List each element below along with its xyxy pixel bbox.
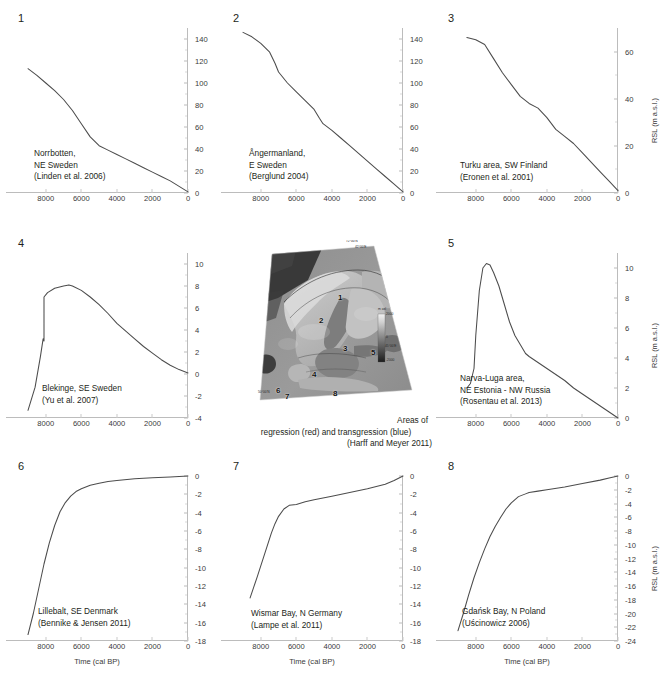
x-tick-label: 2000 bbox=[574, 419, 591, 428]
map-marker-7[interactable]: 7 bbox=[285, 392, 289, 401]
y-tick-label: -6 bbox=[410, 527, 417, 536]
map-marker-5[interactable]: 5 bbox=[371, 348, 375, 357]
map-coord-label-2: 45°00'E bbox=[385, 344, 396, 348]
y-tick-label: -2 bbox=[195, 490, 202, 499]
map-marker-2[interactable]: 2 bbox=[319, 316, 323, 325]
x-tick-label: 8000 bbox=[37, 194, 54, 203]
y-tick-label: -16 bbox=[195, 618, 206, 627]
panel-caption-line: (Yu et al. 2007) bbox=[42, 395, 122, 407]
y-tick-label: -6 bbox=[625, 513, 632, 522]
panel-number: 6 bbox=[18, 460, 24, 472]
y-tick-label: 6 bbox=[625, 324, 629, 333]
y-tick-label: -4 bbox=[195, 414, 202, 423]
x-tick-label: 4000 bbox=[108, 194, 125, 203]
x-tick-label: 6000 bbox=[503, 419, 520, 428]
y-tick-label: -10 bbox=[195, 563, 206, 572]
panel-7: 70-2-4-6-8-10-12-14-16-18800060004000200… bbox=[215, 458, 430, 674]
x-tick-label: 6000 bbox=[288, 194, 305, 203]
panel-caption-line: NE Sweden bbox=[34, 160, 106, 172]
map-satellite-image: 72°00'N 42°00'E 45°00'E 50°00'N m asl 20… bbox=[254, 240, 418, 412]
x-tick-label: 0 bbox=[186, 194, 190, 203]
x-tick-label: 4000 bbox=[538, 194, 555, 203]
x-tick-label: 6000 bbox=[503, 194, 520, 203]
y-tick-label: 60 bbox=[195, 123, 203, 132]
y-tick-label: -2 bbox=[410, 490, 417, 499]
map-caption: Areas of regression (red) and transgress… bbox=[236, 415, 436, 450]
panel-caption-line: Ångermanland, bbox=[249, 148, 309, 160]
y-tick-label: 0 bbox=[195, 472, 199, 481]
panel-number: 8 bbox=[448, 460, 454, 472]
y-tick-label: -4 bbox=[195, 508, 202, 517]
x-tick-label: 2000 bbox=[359, 194, 376, 203]
y-tick-label: -10 bbox=[625, 540, 636, 549]
y-tick-label: -4 bbox=[410, 508, 417, 517]
y-tick-label: 40 bbox=[625, 94, 633, 103]
x-axis-ticks: 80006000400020000 bbox=[6, 418, 188, 432]
y-tick-label: -16 bbox=[410, 618, 421, 627]
x-tick-label: 4000 bbox=[108, 642, 125, 651]
y-axis-title: RSL (m a.s.l.) bbox=[650, 98, 659, 143]
x-axis-ticks: 80006000400020000 bbox=[436, 641, 618, 655]
map-marker-1[interactable]: 1 bbox=[338, 293, 342, 302]
y-tick-label: 0 bbox=[625, 414, 629, 423]
map-coord-label-1: 42°00'E bbox=[355, 245, 366, 249]
panel-caption-line: Norrbotten, bbox=[34, 148, 106, 160]
panel-8: 80-2-4-6-8-10-12-14-16-18-20-22-24800060… bbox=[430, 458, 645, 674]
x-tick-label: 4000 bbox=[323, 642, 340, 651]
map-colorbar-tick-mid: 0 bbox=[386, 335, 388, 339]
panel-caption: Narva-Luga area,NE Estonia - NW Russia(R… bbox=[460, 373, 550, 408]
panel-caption-line: Gdańsk Bay, N Poland bbox=[462, 606, 545, 618]
y-tick-label: 0 bbox=[195, 370, 199, 379]
y-tick-label: -14 bbox=[625, 568, 636, 577]
x-tick-label: 0 bbox=[616, 419, 620, 428]
baltic-location-map: 72°00'N 42°00'E 45°00'E 50°00'N m asl 20… bbox=[236, 238, 436, 460]
panel-number: 4 bbox=[18, 237, 24, 249]
y-tick-label: -8 bbox=[625, 527, 632, 536]
panel-caption-line: (Uścinowicz 2006) bbox=[462, 618, 545, 630]
map-marker-4[interactable]: 4 bbox=[312, 370, 316, 379]
y-tick-label: -20 bbox=[625, 609, 636, 618]
panel-6: 60-2-4-6-8-10-12-14-16-18800060004000200… bbox=[0, 458, 215, 674]
y-tick-label: 20 bbox=[195, 167, 203, 176]
y-tick-label: -18 bbox=[195, 637, 206, 646]
x-tick-label: 2000 bbox=[144, 419, 161, 428]
map-marker-8[interactable]: 8 bbox=[333, 389, 337, 398]
map-colorbar-tick-top: 2000 bbox=[386, 312, 393, 316]
map-marker-6[interactable]: 6 bbox=[276, 386, 280, 395]
y-tick-label: -2 bbox=[625, 485, 632, 494]
panel-caption: Turku area, SW Finland(Eronen et al. 200… bbox=[460, 160, 547, 183]
y-tick-label: 40 bbox=[410, 145, 418, 154]
panel-caption-line: (Bennike & Jensen 2011) bbox=[38, 618, 131, 630]
x-tick-label: 2000 bbox=[574, 194, 591, 203]
panel-caption: Blekinge, SE Sweden(Yu et al. 2007) bbox=[42, 383, 122, 406]
y-tick-label: 8 bbox=[195, 282, 199, 291]
x-tick-label: 6000 bbox=[288, 642, 305, 651]
panel-caption-line: Turku area, SW Finland bbox=[460, 160, 547, 172]
map-marker-3[interactable]: 3 bbox=[343, 344, 347, 353]
map-coord-label-3: 50°00'N bbox=[258, 390, 270, 394]
x-axis-ticks: 80006000400020000 bbox=[221, 641, 403, 655]
x-tick-label: 8000 bbox=[37, 642, 54, 651]
x-tick-label: 6000 bbox=[503, 642, 520, 651]
x-tick-label: 4000 bbox=[323, 194, 340, 203]
panel-caption-line: Wismar Bay, N Germany bbox=[251, 608, 342, 620]
panel-4: 4-4-2024681080006000400020000Blekinge, S… bbox=[0, 235, 215, 457]
panel-caption: Lillebalt, SE Denmark(Bennike & Jensen 2… bbox=[38, 606, 131, 629]
panel-caption-line: E Sweden bbox=[249, 160, 309, 172]
y-tick-label: 140 bbox=[195, 35, 208, 44]
y-tick-label: 80 bbox=[410, 101, 418, 110]
y-axis-title: RSL (m a.s.l.) bbox=[650, 546, 659, 591]
y-tick-label: 0 bbox=[625, 472, 629, 481]
y-tick-label: 0 bbox=[625, 189, 629, 198]
y-tick-label: 6 bbox=[195, 304, 199, 313]
panel-caption: Norrbotten,NE Sweden(Linden et al. 2006) bbox=[34, 148, 106, 183]
x-tick-label: 4000 bbox=[538, 642, 555, 651]
y-tick-label: -16 bbox=[625, 582, 636, 591]
y-tick-label: -8 bbox=[195, 545, 202, 554]
y-axis-title: RSL (m a.s.l.) bbox=[650, 323, 659, 368]
panel-caption-line: (Lampe et al. 2011) bbox=[251, 620, 342, 632]
x-tick-label: 6000 bbox=[73, 194, 90, 203]
y-tick-label: 100 bbox=[195, 79, 208, 88]
x-axis-ticks: 80006000400020000 bbox=[436, 418, 618, 432]
map-coord-label-0: 72°00'N bbox=[346, 240, 358, 243]
